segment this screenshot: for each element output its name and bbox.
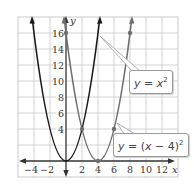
data-point: [64, 31, 68, 35]
callout-equals: = (: [125, 140, 146, 153]
data-point: [112, 127, 116, 131]
y-tick-label: 6: [58, 108, 64, 119]
y-tick-label: 16: [52, 28, 64, 39]
x-tick-label: 6: [111, 164, 117, 175]
x-tick-labels: −4 −2 2 4 6 8 10 12: [24, 164, 168, 175]
x-tick-label: 10: [140, 164, 152, 175]
x-tick-label: 4: [95, 164, 101, 175]
x-tick-label: 8: [127, 164, 133, 175]
y-tick-label: 8: [58, 92, 64, 103]
x-tick-label: 2: [79, 164, 85, 175]
callout-exponent: 2: [179, 139, 183, 147]
y-tick-label: 14: [52, 44, 64, 55]
callout-y-equals-x-minus-4-squared: y = (x − 4)2: [113, 133, 189, 157]
y-tick-label: 4: [58, 124, 64, 135]
x-tick-label: 12: [156, 164, 168, 175]
x-axis-label: x: [172, 164, 178, 175]
callout-exponent: 2: [163, 76, 167, 84]
coordinate-plane: −4 −2 2 4 6 8 10 12 x 4 6 8 10 12 14 16 …: [0, 0, 194, 192]
y-axis-label: y: [69, 15, 76, 26]
data-point: [80, 127, 84, 131]
callout-minus-four: − 4): [152, 140, 180, 153]
callout-equals: =: [141, 77, 157, 90]
x-tick-label: −2: [40, 164, 54, 175]
y-tick-label: 10: [52, 76, 64, 87]
callout-y-equals-x-squared: y = x2: [129, 70, 173, 94]
x-tick-label: −4: [24, 164, 38, 175]
data-point: [96, 159, 100, 163]
data-point: [128, 31, 132, 35]
y-tick-label: 12: [52, 60, 64, 71]
